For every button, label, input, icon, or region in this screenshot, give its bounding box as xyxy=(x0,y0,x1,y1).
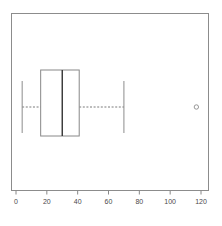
x-tick-label: 120 xyxy=(195,198,207,205)
outlier-points xyxy=(194,105,198,109)
x-tick-label: 40 xyxy=(74,198,82,205)
outlier-point xyxy=(194,105,198,109)
x-tick-label: 20 xyxy=(43,198,51,205)
x-tick-label: 100 xyxy=(164,198,176,205)
x-tick-label: 80 xyxy=(135,198,143,205)
boxplot-figure: 020406080100120 xyxy=(0,0,222,226)
box-plot-group xyxy=(22,70,198,136)
x-axis-tick-labels: 020406080100120 xyxy=(14,198,207,205)
x-axis-ticks xyxy=(16,191,201,195)
x-tick-label: 60 xyxy=(105,198,113,205)
x-tick-label: 0 xyxy=(14,198,18,205)
box-quartile-rect xyxy=(41,70,80,136)
boxplot-canvas: 020406080100120 xyxy=(0,0,222,226)
